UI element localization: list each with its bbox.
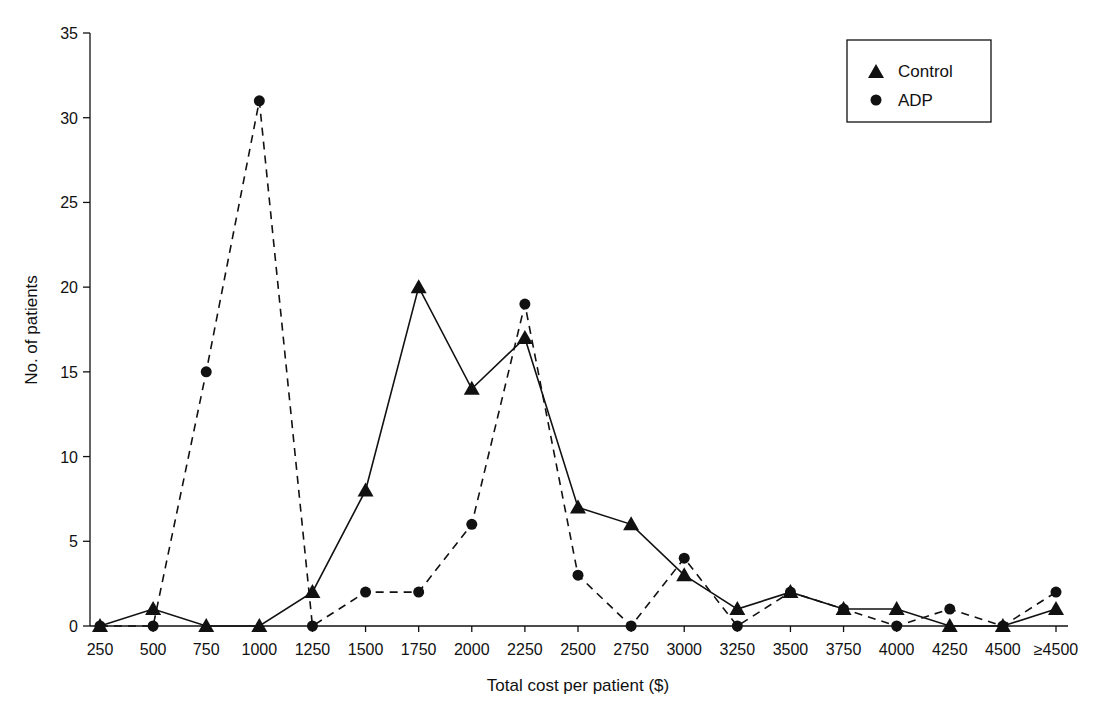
x-tick-label: 3500 xyxy=(773,641,809,658)
y-tick-label: 25 xyxy=(60,194,78,211)
circle-marker-icon xyxy=(838,604,849,615)
x-tick-label: 1250 xyxy=(295,641,331,658)
circle-marker-icon xyxy=(148,621,159,632)
x-tick-label: 4500 xyxy=(985,641,1021,658)
y-tick-label: 5 xyxy=(69,533,78,550)
circle-marker-icon xyxy=(95,621,106,632)
circle-marker-icon xyxy=(679,553,690,564)
x-tick-label: 3250 xyxy=(720,641,756,658)
y-axis: 05101520253035 xyxy=(60,25,90,635)
x-tick-label: 4250 xyxy=(932,641,968,658)
circle-marker-icon xyxy=(307,621,318,632)
triangle-marker-icon xyxy=(145,601,161,615)
y-tick-label: 20 xyxy=(60,279,78,296)
triangle-marker-icon xyxy=(411,279,427,293)
x-axis: 2505007501000125015001750200022502500275… xyxy=(87,626,1079,658)
circle-marker-icon xyxy=(466,519,477,530)
x-tick-label: 500 xyxy=(140,641,167,658)
y-tick-label: 15 xyxy=(60,364,78,381)
x-tick-label: 1750 xyxy=(401,641,437,658)
legend-label-control: Control xyxy=(898,62,953,81)
x-tick-label: 4000 xyxy=(879,641,915,658)
y-tick-label: 35 xyxy=(60,25,78,42)
circle-marker-icon xyxy=(871,95,882,106)
triangle-marker-icon xyxy=(570,499,586,513)
triangle-marker-icon xyxy=(1048,601,1064,615)
triangle-marker-icon xyxy=(358,482,374,496)
x-tick-label: 2500 xyxy=(560,641,596,658)
line-chart: 05101520253035 2505007501000125015001750… xyxy=(0,0,1107,715)
triangle-marker-icon xyxy=(251,618,267,632)
y-tick-label: 10 xyxy=(60,449,78,466)
circle-marker-icon xyxy=(573,570,584,581)
x-tick-label: ≥4500 xyxy=(1034,641,1078,658)
series-adp xyxy=(95,95,1062,631)
circle-marker-icon xyxy=(254,95,265,106)
y-tick-label: 0 xyxy=(69,618,78,635)
circle-marker-icon xyxy=(944,604,955,615)
legend-label-adp: ADP xyxy=(898,91,933,110)
x-tick-label: 3000 xyxy=(666,641,702,658)
y-tick-label: 30 xyxy=(60,110,78,127)
x-tick-label: 1500 xyxy=(348,641,384,658)
circle-marker-icon xyxy=(997,621,1008,632)
circle-marker-icon xyxy=(413,587,424,598)
circle-marker-icon xyxy=(519,299,530,310)
circle-marker-icon xyxy=(201,366,212,377)
circle-marker-icon xyxy=(626,621,637,632)
circle-marker-icon xyxy=(785,587,796,598)
y-axis-title: No. of patients xyxy=(22,275,41,385)
circle-marker-icon xyxy=(360,587,371,598)
x-axis-title: Total cost per patient ($) xyxy=(487,676,669,695)
triangle-marker-icon xyxy=(889,601,905,615)
circle-marker-icon xyxy=(891,621,902,632)
series-layer xyxy=(92,95,1064,632)
x-tick-label: 250 xyxy=(87,641,114,658)
x-tick-label: 2750 xyxy=(613,641,649,658)
triangle-marker-icon xyxy=(304,584,320,598)
x-tick-label: 2250 xyxy=(507,641,543,658)
x-tick-label: 1000 xyxy=(242,641,278,658)
circle-marker-icon xyxy=(1051,587,1062,598)
x-tick-label: 3750 xyxy=(826,641,862,658)
x-tick-label: 750 xyxy=(193,641,220,658)
legend: Control ADP xyxy=(847,40,991,122)
circle-marker-icon xyxy=(732,621,743,632)
x-tick-label: 2000 xyxy=(454,641,490,658)
